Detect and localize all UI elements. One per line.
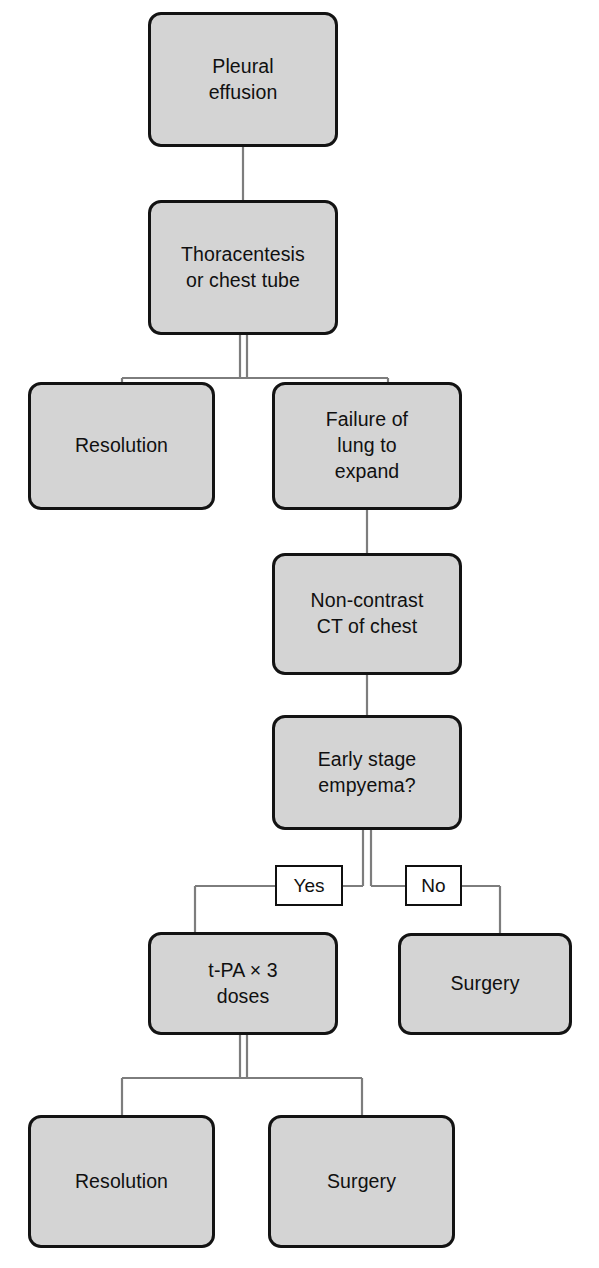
edge-label-text: Yes [294, 876, 325, 895]
edge-label-yes[interactable]: Yes [275, 865, 343, 906]
node-label: Surgery [445, 971, 526, 997]
node-label: Failure of lung to expand [320, 407, 414, 484]
node-non-contrast-ct-of-chest[interactable]: Non-contrast CT of chest [272, 553, 462, 675]
node-t-pa-3-doses[interactable]: t-PA × 3 doses [148, 932, 338, 1035]
node-label: Surgery [321, 1169, 402, 1195]
edge-label-text: No [421, 876, 445, 895]
node-resolution-upper[interactable]: Resolution [28, 382, 215, 510]
node-thoracentesis-or-chest-tube[interactable]: Thoracentesis or chest tube [148, 200, 338, 335]
flowchart-canvas: Pleural effusion Thoracentesis or chest … [0, 0, 599, 1268]
node-label: t-PA × 3 doses [202, 958, 283, 1009]
node-failure-of-lung-to-expand[interactable]: Failure of lung to expand [272, 382, 462, 510]
node-pleural-effusion[interactable]: Pleural effusion [148, 12, 338, 147]
node-label: Non-contrast CT of chest [305, 588, 430, 639]
node-label: Thoracentesis or chest tube [175, 242, 311, 293]
node-label: Resolution [69, 1169, 174, 1195]
node-surgery-lower[interactable]: Surgery [268, 1115, 455, 1248]
node-early-stage-empyema[interactable]: Early stage empyema? [272, 715, 462, 830]
node-label: Resolution [69, 433, 174, 459]
node-label: Pleural effusion [203, 54, 284, 105]
node-resolution-lower[interactable]: Resolution [28, 1115, 215, 1248]
node-surgery-middle[interactable]: Surgery [398, 933, 572, 1035]
node-label: Early stage empyema? [312, 747, 423, 798]
edge-label-no[interactable]: No [405, 865, 462, 906]
